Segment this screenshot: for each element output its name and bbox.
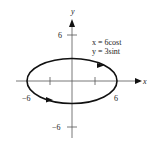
tick-label-y-pos: 6	[58, 31, 62, 40]
equation-y: y = 3sint	[92, 47, 121, 56]
tick-label-x-neg: −6	[22, 94, 31, 103]
y-axis-label: y	[70, 7, 75, 16]
y-axis-arrow-icon	[69, 19, 75, 27]
tick-label-x-pos: 6	[114, 94, 118, 103]
parametric-plot: y x 6 −6 −6 6 x = 6cost y = 3sint	[0, 0, 149, 145]
x-axis-label: x	[142, 77, 147, 86]
tick-label-y-neg: −6	[52, 123, 61, 132]
equation-x: x = 6cost	[92, 38, 122, 47]
x-axis-arrow-icon	[135, 78, 142, 84]
